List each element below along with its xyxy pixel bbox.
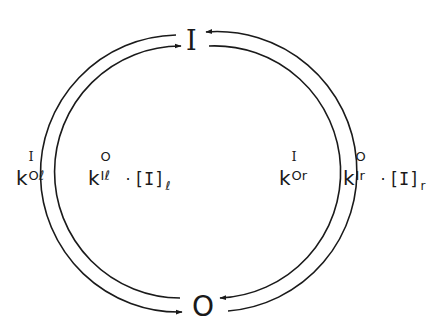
- rate-superscript: I: [29, 150, 34, 163]
- rate-superscript: O: [356, 150, 366, 163]
- rate-symbol: k: [88, 166, 100, 190]
- state-I-label: I: [186, 27, 197, 54]
- rate-subscript: Oℓ: [29, 169, 45, 182]
- concentration-subscript: ℓ: [165, 179, 170, 193]
- rate-superscript: I: [292, 150, 297, 163]
- kinetic-cycle-diagram: [0, 0, 440, 328]
- rate-subscript: Iℓ: [101, 169, 110, 182]
- multiplication-dot: ·: [381, 172, 386, 188]
- rate-subscript: Ir: [356, 169, 365, 182]
- rate-superscript: O: [101, 150, 111, 163]
- multiplication-dot: ·: [126, 172, 131, 188]
- concentration-term: [I]: [389, 169, 420, 189]
- rate-label-right-outer: k O Ir ·[I]r: [343, 165, 425, 188]
- arc-right-inner-I-to-O: [209, 46, 341, 298]
- rate-symbol: k: [279, 166, 291, 190]
- rate-label-right-inner: k I Or: [279, 165, 313, 188]
- concentration-subscript: r: [420, 179, 425, 193]
- concentration-term: [I]: [134, 169, 165, 189]
- rate-symbol: k: [16, 166, 28, 190]
- rate-label-left-outer: k I Oℓ: [16, 165, 50, 188]
- rate-label-left-inner: k O Iℓ ·[I]ℓ: [88, 165, 170, 188]
- rate-symbol: k: [343, 166, 355, 190]
- state-O-label: O: [192, 293, 214, 321]
- rate-subscript: Or: [292, 169, 308, 182]
